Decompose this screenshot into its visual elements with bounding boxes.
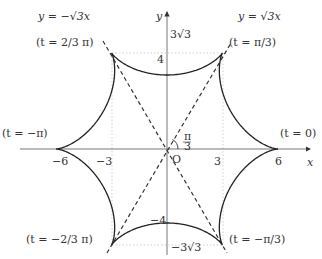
- svg-text:3: 3: [184, 140, 191, 153]
- cusp-label-t-2pi3: (t = 2/3 π): [36, 36, 94, 49]
- label-y-sqrt3x: y = √3x: [237, 10, 281, 23]
- x-tick-3: 3: [214, 155, 221, 168]
- cusp-label-t-neg-pi: (t = −π): [2, 127, 48, 140]
- y-tick-3sqrt3: 3√3: [170, 28, 191, 41]
- cusp-label-t-neg-2pi3: (t = −2/3 π): [26, 233, 93, 246]
- cusp-label-t-neg-pi3: (t = −π/3): [229, 233, 285, 246]
- label-y-neg-sqrt3x: y = −√3x: [37, 10, 91, 23]
- cusp-label-t0: (t = 0): [280, 127, 316, 140]
- y-tick--3sqrt3: −3√3: [171, 241, 201, 254]
- origin-label: O: [172, 153, 181, 166]
- angle-arc: [173, 140, 179, 150]
- cusp-label-t-pi3: (t = π/3): [229, 36, 276, 49]
- x-tick--3: −3: [96, 155, 112, 168]
- y-tick--4: −4: [150, 214, 166, 227]
- y-tick-4: 4: [157, 53, 164, 66]
- x-tick--6: −6: [52, 155, 68, 168]
- x-tick-6: 6: [275, 155, 282, 168]
- x-axis-label: x: [307, 156, 314, 169]
- cycloid-diagram: π 3 x y O −6 −3 3 6 4 3√3 −4 −3√3 y = √3…: [0, 0, 322, 259]
- y-axis-label: y: [155, 10, 163, 23]
